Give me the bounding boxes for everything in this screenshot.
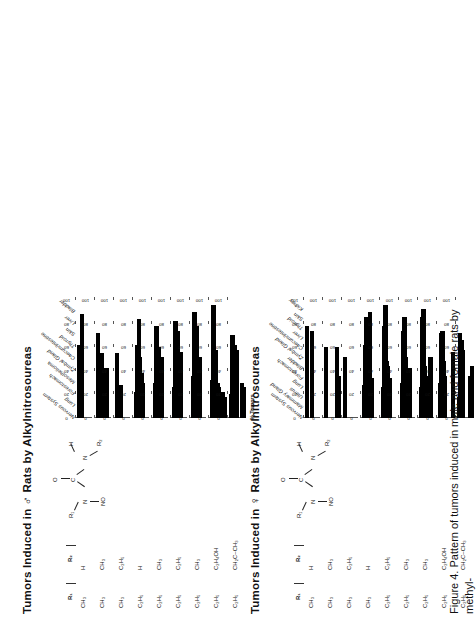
chart-row: 100806040200 — [399, 300, 415, 418]
axis-tick-label: 40 — [286, 368, 304, 373]
r1-value-row-3: CH₃ — [365, 597, 371, 608]
r2-column-rule — [294, 545, 304, 546]
axis-tick-label: 0 — [286, 416, 304, 421]
axis-tick-label: 20 — [210, 392, 228, 397]
bar-7 — [370, 378, 374, 418]
bond-line — [90, 451, 98, 456]
axis-tick-label: 80 — [172, 321, 190, 326]
axis-tick-label: 40 — [96, 368, 114, 373]
r2-value-row-1: CH₃ — [327, 559, 333, 570]
axis-tick-label: 60 — [134, 345, 152, 350]
axis-tick-label: 60 — [96, 345, 114, 350]
chart-row: 100806040200 — [133, 300, 149, 418]
axis-tick-label: 80 — [191, 321, 209, 326]
axis-tick-label: 20 — [381, 392, 399, 397]
r2-value-row-5: C₂H₅ — [175, 557, 181, 570]
axis-tick-label: 100 — [77, 298, 95, 303]
axis-tick-label: 60 — [286, 345, 304, 350]
r1-value-row-2: CH₃ — [346, 597, 352, 608]
axis-tick-label: 60 — [400, 345, 418, 350]
bond-line — [76, 469, 84, 475]
axis-tick-label: 80 — [324, 321, 342, 326]
atom-nitroso-group: NO — [328, 497, 334, 506]
r1-value-row-4: C₂H₅ — [384, 595, 390, 608]
chart-row: 100806040200 — [228, 300, 244, 418]
bond-line — [304, 469, 312, 475]
axis-tick-label: 100 — [134, 298, 152, 303]
axis-tick-label: 60 — [210, 345, 228, 350]
chart-row: 100806040200 — [95, 300, 111, 418]
axis-tick-label: 40 — [381, 368, 399, 373]
axis-tick-label: 40 — [134, 368, 152, 373]
r2-column-rule — [66, 545, 76, 546]
axis-tick-label: 80 — [153, 321, 171, 326]
axis-tick-label: 60 — [115, 345, 133, 350]
r1-value-row-6: C₂H₅ — [194, 595, 200, 608]
r2-value-row-0: H — [308, 566, 314, 570]
axis-tick-label: 60 — [305, 345, 323, 350]
axis-tick-label: 0 — [305, 416, 323, 421]
r2-value-row-1: CH₃ — [99, 559, 105, 570]
axis-tick-label: 60 — [77, 345, 95, 350]
chart-row: 100806040200 — [380, 300, 396, 418]
axis-tick-label: 80 — [115, 321, 133, 326]
bar-2 — [80, 314, 84, 418]
bar-5 — [141, 383, 145, 418]
axis-tick-label: 80 — [362, 321, 380, 326]
chart-row: 100806040200 — [171, 300, 187, 418]
axis-tick-label: 100 — [343, 298, 361, 303]
axis-tick-label: 0 — [343, 416, 361, 421]
atom-nitroso-group: NO — [100, 497, 106, 506]
axis-tick-label: 20 — [362, 392, 380, 397]
axis-tick-label: 20 — [134, 392, 152, 397]
axis-tick-label: 0 — [324, 416, 342, 421]
bond-line — [305, 481, 313, 487]
axis-tick-label: 60 — [381, 345, 399, 350]
axis-tick-label: 80 — [134, 321, 152, 326]
r1-value-row-4: C₂H₅ — [156, 595, 162, 608]
axis-tick-label: 40 — [58, 368, 76, 373]
bar-4 — [235, 350, 239, 418]
axis-tick-label: 60 — [191, 345, 209, 350]
r2-value-row-4: C₂H₅ — [384, 557, 390, 570]
axis-tick-label: 100 — [210, 298, 228, 303]
axis-tick-label: 20 — [400, 392, 418, 397]
axis-tick-label: 0 — [58, 416, 76, 421]
r2-value-row-6: CH₃ — [194, 559, 200, 570]
chart-row: 100806040200 — [152, 300, 168, 418]
axis-tick-label: 40 — [172, 368, 190, 373]
caption-line-1: Figure 4. Pattern of tumors induced in m… — [448, 310, 475, 615]
bar-5 — [198, 357, 202, 418]
r1-value-row-3: C₂H₅ — [137, 595, 143, 608]
r2-value-row-4: CH₃ — [156, 559, 162, 570]
axis-tick-label: 80 — [77, 321, 95, 326]
bar-5 — [179, 352, 183, 418]
r2-value-row-7: C₂H₄OH — [213, 548, 219, 570]
axis-tick-label: 40 — [191, 368, 209, 373]
axis-tick-label: 40 — [343, 368, 361, 373]
axis-tick-label: 100 — [115, 298, 133, 303]
axis-tick-label: 100 — [362, 298, 380, 303]
atom-nitrogen-right: N — [82, 456, 88, 460]
chart-row: 100806040200 — [190, 300, 206, 418]
r2-value-row-3: H — [365, 566, 371, 570]
axis-tick-label: 100 — [153, 298, 171, 303]
axis-tick-label: 60 — [172, 345, 190, 350]
axis-tick-label: 20 — [343, 392, 361, 397]
axis-tick-label: 20 — [96, 392, 114, 397]
r1-value-row-6: C₂H₅ — [422, 595, 428, 608]
bar-11 — [337, 376, 341, 418]
chart-row: 100806040200 — [304, 300, 320, 418]
r2-value-row-5: CH₃ — [403, 559, 409, 570]
axis-tick-label: 100 — [286, 298, 304, 303]
axis-tick-label: 0 — [115, 416, 133, 421]
axis-tick-label: 60 — [153, 345, 171, 350]
axis-tick-label: 20 — [305, 392, 323, 397]
axis-tick-label: 40 — [210, 368, 228, 373]
axis-tick-label: 0 — [400, 416, 418, 421]
r2-value-row-0: H — [80, 566, 86, 570]
bar-3 — [119, 385, 123, 418]
bond-line — [318, 451, 326, 456]
axis-tick-label: 40 — [362, 368, 380, 373]
r1-value-row-2: CH₃ — [118, 597, 124, 608]
